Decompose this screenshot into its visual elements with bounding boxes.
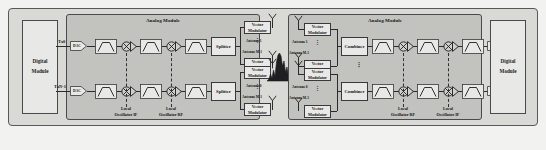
rx-vm-4: Vector Modulator — [304, 105, 331, 118]
rx-lo-rf-label: Local Oscillator RF — [382, 106, 424, 117]
rx-filter-2-top — [417, 39, 439, 54]
rx-bottom-ellipsis: ⋮ — [310, 87, 324, 91]
tx-lo-if-label: Local Oscillator IF — [105, 106, 147, 117]
tx-lo-if-feed — [126, 53, 127, 107]
tx-mixer-rf-bottom — [166, 85, 180, 98]
tx-filter-3-top — [185, 39, 207, 54]
rx-digital-module-label: Digital Module — [491, 57, 525, 77]
wire-sp-top-up — [240, 27, 241, 46]
tx-analog-module-title: Analog Module — [67, 18, 259, 23]
rx-antenna-1-label: Antenna 1 — [292, 40, 307, 45]
rx-vm-3: Vector Modulator — [304, 68, 331, 81]
wire-rx-antm1b — [298, 107, 299, 111]
diagram-canvas: Digital Module Analog Module Tx0 DAC — [0, 0, 546, 150]
tx-lo-rf-label: Local Oscillator RF — [150, 106, 192, 117]
tx0-port-label: Tx0 — [58, 39, 65, 45]
wire-rx-vm2-out — [331, 66, 337, 67]
tx-filter-2-bottom — [140, 84, 162, 99]
rx-mixer-if-bottom — [443, 85, 457, 98]
rx-chain-ellipsis: ⋮ — [352, 62, 366, 67]
rx-filter-3-bottom — [462, 84, 484, 99]
tx-digital-module-label: Digital Module — [23, 57, 57, 77]
rx-antenna-0-label: Antenna 0 — [292, 85, 307, 90]
wire-sp-top-down — [240, 46, 241, 64]
tx-filter-2-top — [140, 39, 162, 54]
rx-filter-3-top — [462, 39, 484, 54]
rx-mixer-rf-bottom — [398, 85, 412, 98]
wire-ant1 — [272, 23, 273, 28]
tx-filter-1-top — [95, 39, 117, 54]
rx-mixer-rf-top — [398, 40, 412, 53]
rx-lo-rf-feed — [403, 53, 404, 107]
tx-antenna-m1-label: Antenna M-1 — [242, 50, 262, 55]
tx-antenna-m1b-label: Antenna M-1 — [242, 95, 262, 100]
tx-mixer-rf-top — [166, 40, 180, 53]
wire-txn1-in — [56, 91, 70, 92]
rx-mixer-if-top — [443, 40, 457, 53]
dac-bottom: DAC — [70, 86, 87, 96]
dac-top-label: DAC — [70, 44, 84, 48]
combiner-bottom: Combiner — [341, 82, 368, 101]
wire-rx-comb-bot-bus — [337, 74, 338, 111]
combiner-top: Combiner — [341, 37, 368, 56]
tx-analog-module: Analog Module — [66, 14, 260, 120]
tx-digital-module: Digital Module — [22, 20, 58, 114]
wire-tx0-in — [56, 46, 70, 47]
wire-rx-comb-top-bus — [337, 29, 338, 66]
rx-antenna-m1b-label: Antenna M-1 — [289, 96, 309, 101]
tx-filter-1-bottom — [95, 84, 117, 99]
dac-top: DAC — [70, 41, 87, 51]
tx-vm-1: Vector Modulator — [244, 21, 271, 34]
splitter-bottom: Splitter — [211, 82, 236, 101]
rx-top-ellipsis: ⋮ — [310, 41, 324, 45]
wire-rx-vm4-out — [331, 111, 337, 112]
tx-vm-4: Vector Modulator — [244, 103, 271, 116]
rx-filter-1-top — [372, 39, 394, 54]
wire-sp-bot-down — [240, 91, 241, 109]
rx-vm-1: Vector Modulator — [304, 23, 331, 36]
rx-filter-1-bottom — [372, 84, 394, 99]
tx-mixer-if-bottom — [121, 85, 135, 98]
wire-tx-bot-1 — [87, 91, 95, 92]
splitter-top: Splitter — [211, 37, 236, 56]
wire-tx-top-1 — [87, 46, 95, 47]
rx-lo-if-feed — [448, 53, 449, 107]
tx-filter-3-bottom — [185, 84, 207, 99]
wire-antm1b — [272, 105, 273, 110]
tx-antenna-0-label: Antenna 0 — [246, 84, 261, 89]
rx-lo-if-label: Local Oscillator IF — [427, 106, 469, 117]
dac-bottom-label: DAC — [70, 89, 84, 93]
wire-sp-bot-up — [240, 72, 241, 91]
rx-filter-2-bottom — [417, 84, 439, 99]
txn1-port-label: TxN-1 — [54, 84, 66, 90]
rx-digital-module: Digital Module — [490, 20, 526, 114]
tx-antenna-1-label: Antenna 1 — [246, 39, 261, 44]
rx-antenna-m1-label: Antenna M-1 — [289, 51, 309, 56]
tx-lo-rf-feed — [171, 53, 172, 107]
tx-mixer-if-top — [121, 40, 135, 53]
